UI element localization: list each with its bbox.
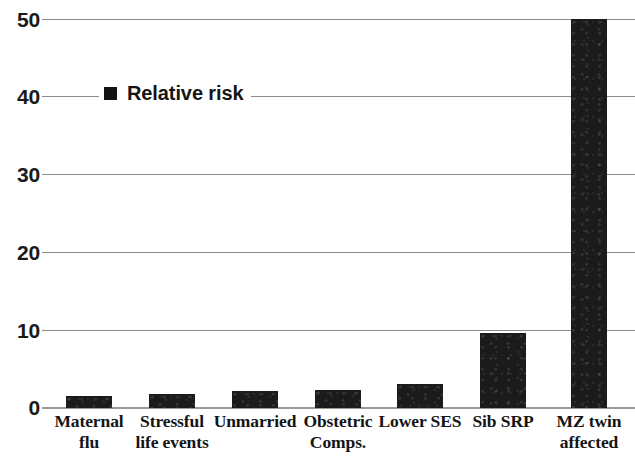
- legend-label-relative-risk: Relative risk: [127, 83, 244, 103]
- bar-obstetric-comps: [315, 390, 361, 408]
- x-label-line-1: Obstetric: [303, 411, 372, 431]
- x-label-line-2: affected: [534, 432, 635, 453]
- legend-marker-relative-risk-icon: [104, 87, 117, 100]
- bar-mz-twin-affected: [571, 19, 607, 408]
- bar-lower-ses: [397, 384, 443, 408]
- relative-risk-bar-chart: 50 40 30 20 10 0 Relative risk Maternalf…: [0, 0, 635, 456]
- legend: Relative risk: [99, 80, 251, 106]
- bar-sib-srp: [480, 333, 526, 408]
- bar-maternal-flu: [66, 396, 112, 408]
- x-label-line-1: Sib SRP: [472, 411, 533, 431]
- x-label-line-1: MZ twin: [557, 411, 622, 431]
- x-axis-category-labels: MaternalfluStressfullife eventsUnmarried…: [0, 411, 635, 456]
- x-label-line-2: life events: [117, 432, 227, 453]
- bars: [0, 0, 635, 456]
- bar-stressful-life-events: [149, 394, 195, 408]
- x-label-line-1: Stressful: [140, 411, 204, 431]
- x-label-line-2: Comps.: [283, 432, 393, 453]
- x-label-line-1: Maternal: [54, 411, 123, 431]
- x-label-mz-twin-affected: MZ twinaffected: [534, 411, 635, 453]
- bar-unmarried: [232, 391, 278, 408]
